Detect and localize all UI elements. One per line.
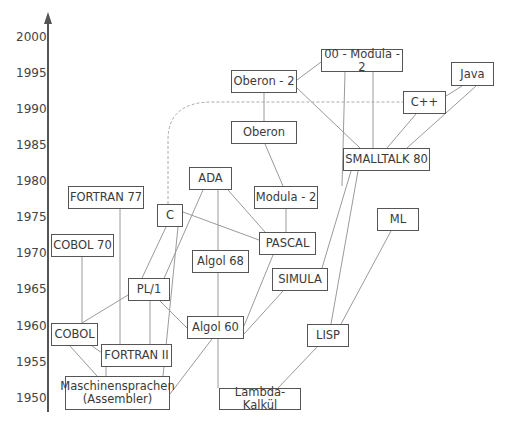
edge-line	[322, 171, 351, 268]
node-algol60: Algol 60	[187, 316, 244, 339]
node-cobol: COBOL	[51, 323, 98, 346]
node-pascal: PASCAL	[259, 232, 316, 255]
node-c: C	[157, 204, 183, 227]
edge-line	[170, 339, 212, 394]
node-oberon: Oberon	[231, 121, 297, 144]
edge-line	[183, 212, 259, 240]
node-pl1: PL/1	[128, 278, 170, 301]
edge-line	[297, 88, 360, 148]
diagram-canvas	[0, 0, 513, 431]
node-algol68: Algol 68	[192, 250, 249, 273]
node-simula: SIMULA	[272, 268, 328, 291]
axis-arrow-icon	[44, 12, 52, 24]
node-cobol70: COBOL 70	[51, 234, 114, 257]
year-label: 1955	[16, 355, 46, 369]
year-label: 1995	[16, 66, 46, 80]
year-label: 1950	[16, 391, 46, 405]
node-ada: ADA	[189, 167, 232, 190]
node-smalltalk80: SMALLTALK 80	[343, 148, 430, 171]
node-ml: ML	[377, 208, 419, 231]
year-label: 1990	[16, 102, 46, 116]
node-lisp: LISP	[307, 324, 349, 347]
node-fortran2: FORTRAN II	[101, 344, 172, 367]
edge-line	[160, 301, 187, 328]
year-label: 1980	[16, 174, 46, 188]
year-label: 1960	[16, 319, 46, 333]
edge-line	[142, 227, 166, 278]
node-fortran77: FORTRAN 77	[68, 186, 144, 209]
node-cpp: C++	[403, 91, 446, 114]
edge-line	[341, 231, 391, 324]
edge-line	[446, 86, 462, 96]
node-lambda: Lambda-Kalkül	[219, 388, 301, 410]
node-asm: Maschinensprachen (Assembler)	[65, 376, 170, 410]
node-oberon2: Oberon - 2	[231, 70, 297, 93]
node-java: Java	[451, 62, 494, 86]
edge-line	[387, 114, 416, 148]
node-modula2: Modula - 2	[254, 186, 318, 209]
year-label: 1985	[16, 138, 46, 152]
year-label: 1965	[16, 282, 46, 296]
edge-line	[82, 295, 128, 323]
edge-line	[265, 144, 283, 186]
year-label: 1975	[16, 210, 46, 224]
year-label: 1970	[16, 246, 46, 260]
node-oomodula2: 00 - Modula - 2	[321, 49, 403, 72]
edge-line	[70, 346, 97, 376]
edge-line	[297, 62, 321, 80]
year-label: 2000	[16, 30, 46, 44]
edge-line	[278, 347, 317, 388]
